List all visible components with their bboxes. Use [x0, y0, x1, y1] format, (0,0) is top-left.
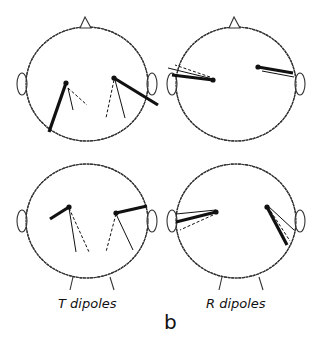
- neck-left: [219, 277, 222, 290]
- head-top-left: [17, 17, 158, 141]
- dipole-thick: [258, 67, 293, 73]
- dipole-thick: [49, 83, 66, 132]
- dipole-dashed: [106, 80, 114, 118]
- neck-right: [110, 277, 114, 290]
- head-bottom-right: [167, 164, 305, 290]
- column-label-t-dipoles: T dipoles: [58, 296, 117, 311]
- left-ear: [167, 210, 177, 232]
- dipole-head-diagram: [0, 0, 318, 342]
- dipole-origin-marker: [63, 80, 68, 85]
- head-outline-front: [26, 164, 148, 278]
- head-outline-front: [176, 164, 296, 278]
- column-label-r-dipoles: R dipoles: [206, 296, 266, 311]
- head-outline-front: [176, 27, 296, 141]
- head-outline-front: [26, 27, 148, 141]
- head-top-right: [167, 17, 305, 141]
- neck-left: [70, 277, 73, 290]
- dipole-thick: [50, 207, 69, 219]
- dipole-dashed: [268, 207, 290, 241]
- head-bottom-left: [17, 164, 157, 290]
- nose: [80, 17, 91, 28]
- dipole-dashed: [106, 214, 116, 252]
- dipole-thin: [116, 214, 133, 250]
- dipole-thick: [116, 206, 147, 213]
- dipole-origin-marker: [111, 75, 116, 80]
- dipole-origin-marker: [255, 64, 260, 69]
- nose: [229, 17, 240, 28]
- dipole-thick: [267, 207, 287, 245]
- panel-letter: b: [164, 310, 177, 334]
- neck-right: [259, 277, 263, 290]
